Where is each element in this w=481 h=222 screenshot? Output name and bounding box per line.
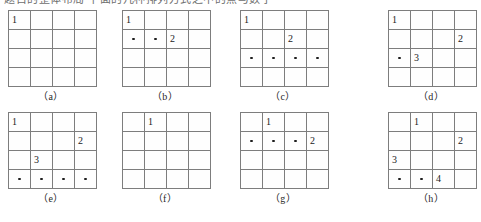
grid-cell[interactable] — [455, 170, 477, 189]
grid-cell[interactable] — [31, 11, 53, 30]
grid-cell[interactable] — [307, 170, 329, 189]
grid-cell[interactable] — [411, 170, 433, 189]
grid-cell[interactable] — [307, 49, 329, 68]
grid-cell[interactable] — [189, 151, 211, 170]
grid-cell[interactable] — [9, 68, 31, 87]
grid-cell[interactable] — [241, 170, 263, 189]
grid-cell[interactable]: 1 — [411, 113, 433, 132]
grid-cell[interactable] — [263, 30, 285, 49]
grid-cell[interactable] — [145, 132, 167, 151]
grid-cell[interactable] — [389, 68, 411, 87]
grid-cell[interactable]: 1 — [123, 11, 145, 30]
grid-cell[interactable] — [285, 170, 307, 189]
grid-cell[interactable] — [53, 151, 75, 170]
grid-cell[interactable] — [433, 151, 455, 170]
grid-cell[interactable] — [189, 30, 211, 49]
grid-cell[interactable] — [389, 113, 411, 132]
grid-cell[interactable] — [53, 170, 75, 189]
grid-cell[interactable] — [167, 170, 189, 189]
grid-cell[interactable] — [145, 68, 167, 87]
grid-cell[interactable] — [53, 49, 75, 68]
grid-cell[interactable] — [31, 49, 53, 68]
grid-cell[interactable] — [123, 151, 145, 170]
grid-cell[interactable] — [123, 170, 145, 189]
grid-cell[interactable] — [455, 151, 477, 170]
grid-cell[interactable] — [9, 49, 31, 68]
grid-cell[interactable] — [433, 113, 455, 132]
grid-cell[interactable] — [167, 11, 189, 30]
grid-cell[interactable]: 2 — [307, 132, 329, 151]
grid-cell[interactable] — [167, 49, 189, 68]
grid-cell[interactable] — [411, 68, 433, 87]
grid-cell[interactable] — [411, 30, 433, 49]
grid-cell[interactable] — [433, 49, 455, 68]
grid-cell[interactable] — [9, 170, 31, 189]
grid-cell[interactable] — [167, 68, 189, 87]
grid-cell[interactable] — [145, 49, 167, 68]
grid-cell[interactable] — [75, 113, 97, 132]
grid-cell[interactable] — [307, 30, 329, 49]
grid-cell[interactable] — [389, 170, 411, 189]
grid-cell[interactable] — [189, 113, 211, 132]
grid-cell[interactable] — [263, 49, 285, 68]
grid-cell[interactable] — [123, 132, 145, 151]
grid-cell[interactable] — [433, 30, 455, 49]
grid-cell[interactable] — [75, 49, 97, 68]
grid-cell[interactable] — [411, 151, 433, 170]
grid-cell[interactable] — [285, 68, 307, 87]
grid-cell[interactable] — [285, 132, 307, 151]
grid-cell[interactable] — [53, 68, 75, 87]
grid-cell[interactable] — [241, 132, 263, 151]
grid-cell[interactable] — [53, 113, 75, 132]
grid-cell[interactable]: 2 — [285, 30, 307, 49]
grid-cell[interactable] — [75, 30, 97, 49]
grid-cell[interactable]: 3 — [389, 151, 411, 170]
grid-cell[interactable] — [31, 30, 53, 49]
grid-cell[interactable]: 2 — [75, 132, 97, 151]
grid-cell[interactable] — [389, 132, 411, 151]
grid-cell[interactable] — [189, 11, 211, 30]
grid-cell[interactable] — [167, 132, 189, 151]
grid-cell[interactable] — [433, 68, 455, 87]
grid-cell[interactable] — [389, 49, 411, 68]
grid-cell[interactable]: 1 — [241, 11, 263, 30]
grid-cell[interactable] — [241, 151, 263, 170]
grid-cell[interactable] — [31, 170, 53, 189]
grid-cell[interactable] — [189, 49, 211, 68]
grid-cell[interactable] — [241, 113, 263, 132]
grid-cell[interactable] — [9, 151, 31, 170]
grid-cell[interactable] — [53, 11, 75, 30]
grid-cell[interactable] — [53, 30, 75, 49]
grid-cell[interactable] — [31, 132, 53, 151]
grid-cell[interactable] — [455, 113, 477, 132]
grid-cell[interactable]: 3 — [31, 151, 53, 170]
grid-cell[interactable] — [145, 11, 167, 30]
grid-cell[interactable] — [307, 113, 329, 132]
grid-cell[interactable] — [9, 30, 31, 49]
grid-cell[interactable] — [263, 68, 285, 87]
grid-cell[interactable]: 4 — [433, 170, 455, 189]
grid-cell[interactable] — [307, 151, 329, 170]
grid-cell[interactable] — [433, 11, 455, 30]
grid-cell[interactable] — [53, 132, 75, 151]
grid-cell[interactable]: 1 — [9, 113, 31, 132]
grid-cell[interactable] — [9, 132, 31, 151]
grid-cell[interactable] — [189, 170, 211, 189]
grid-cell[interactable] — [167, 113, 189, 132]
grid-cell[interactable] — [307, 11, 329, 30]
grid-cell[interactable] — [455, 49, 477, 68]
grid-cell[interactable] — [285, 113, 307, 132]
grid-cell[interactable] — [285, 151, 307, 170]
grid-cell[interactable] — [123, 68, 145, 87]
grid-cell[interactable] — [123, 49, 145, 68]
grid-cell[interactable] — [75, 11, 97, 30]
grid-cell[interactable] — [263, 132, 285, 151]
grid-cell[interactable] — [123, 30, 145, 49]
grid-cell[interactable] — [455, 68, 477, 87]
grid-cell[interactable] — [263, 151, 285, 170]
grid-cell[interactable] — [75, 68, 97, 87]
grid-cell[interactable] — [189, 132, 211, 151]
grid-cell[interactable] — [285, 49, 307, 68]
grid-cell[interactable] — [31, 113, 53, 132]
grid-cell[interactable] — [433, 132, 455, 151]
